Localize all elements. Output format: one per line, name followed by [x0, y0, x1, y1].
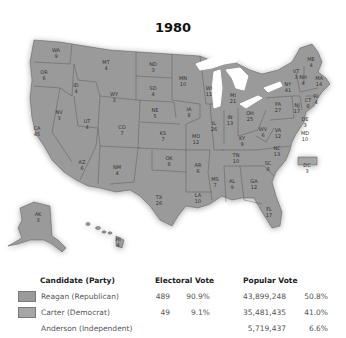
state-label-hi: HI4	[115, 237, 120, 248]
state-electoral-votes: 14	[315, 82, 323, 88]
state-electoral-votes: 4	[115, 243, 120, 249]
state-electoral-votes: 4	[84, 125, 91, 131]
popular-pct: 41.0%	[300, 308, 328, 317]
state-label-me: ME4	[307, 57, 314, 68]
state-electoral-votes: 6	[195, 169, 202, 175]
state-label-mo: MO12	[192, 134, 200, 145]
header-candidate: Candidate (Party)	[40, 276, 115, 285]
state-electoral-votes: 13	[273, 152, 280, 158]
state-label-il: IL26	[211, 121, 217, 132]
state-electoral-votes: 8	[187, 113, 192, 119]
state-label-ma: MA14	[315, 76, 323, 87]
state-label-al: AL9	[229, 179, 235, 190]
state-electoral-votes: 17	[266, 213, 272, 219]
state-label-in: IN13	[227, 115, 233, 126]
state-label-wy: WY3	[110, 92, 118, 103]
state-electoral-votes: 9	[239, 142, 245, 148]
header-electoral-vote: Electoral Vote	[155, 276, 214, 285]
democrat-swatch	[18, 307, 36, 318]
state-electoral-votes: 4	[113, 171, 121, 177]
state-electoral-votes: 25	[246, 117, 254, 123]
popular-votes: 5,719,437	[240, 324, 286, 333]
electoral-votes: 489	[150, 292, 170, 301]
state-label-or: OR6	[40, 70, 47, 81]
state-electoral-votes: 5	[152, 114, 159, 120]
popular-votes: 43,899,248	[240, 292, 286, 301]
state-label-mi: MI21	[230, 93, 236, 104]
state-electoral-votes: 4	[73, 89, 78, 95]
state-label-wv: WV6	[259, 127, 267, 138]
state-electoral-votes: 10	[179, 82, 187, 88]
state-label-nc: NC13	[273, 146, 280, 157]
state-label-ut: UT4	[84, 119, 91, 130]
state-label-nd: ND3	[149, 62, 157, 73]
state-label-ok: OK8	[165, 156, 172, 167]
state-label-nj: NJ17	[294, 103, 300, 114]
state-label-fl: FL17	[266, 207, 272, 218]
state-electoral-votes: 13	[227, 121, 233, 127]
state-electoral-votes: 4	[307, 63, 314, 69]
state-electoral-votes: 4	[314, 100, 319, 106]
state-electoral-votes: 6	[259, 133, 267, 139]
state-electoral-votes: 4	[299, 81, 307, 87]
state-label-va: VA12	[275, 128, 282, 139]
state-label-tn: TN10	[233, 153, 240, 164]
state-electoral-votes: 17	[294, 109, 300, 115]
state-electoral-votes: 11	[206, 92, 212, 98]
state-label-ga: GA12	[250, 179, 257, 190]
state-label-wi: WI11	[206, 86, 212, 97]
state-electoral-votes: 12	[250, 185, 257, 191]
state-electoral-votes: 7	[211, 183, 219, 189]
state-electoral-votes: 6	[40, 76, 47, 82]
popular-pct: 50.8%	[300, 292, 328, 301]
state-electoral-votes: 8	[305, 104, 312, 110]
state-electoral-votes: 45	[34, 132, 41, 138]
state-label-mt: MT4	[102, 60, 109, 71]
state-electoral-votes: 3	[149, 68, 157, 74]
state-electoral-votes: 8	[265, 167, 272, 173]
state-label-de: DE3	[301, 117, 308, 128]
legend-row-anderson: Anderson (Independent) 5,719,437 6.6%	[0, 323, 346, 337]
state-electoral-votes: 9	[229, 185, 235, 191]
state-electoral-votes: 7	[160, 137, 166, 143]
state-label-ne: NE5	[152, 108, 159, 119]
state-electoral-votes: 26	[211, 127, 217, 133]
state-electoral-votes: 4	[102, 66, 109, 72]
electoral-pct: 90.9%	[180, 292, 210, 301]
electoral-pct: 9.1%	[180, 308, 210, 317]
state-label-ia: IA8	[187, 107, 192, 118]
state-electoral-votes: 10	[301, 137, 309, 143]
state-electoral-votes: 3	[110, 98, 118, 104]
state-label-sc: SC8	[265, 161, 272, 172]
state-label-dc: DC3	[303, 163, 310, 174]
state-label-wa: WA9	[52, 48, 60, 59]
state-electoral-votes: 21	[230, 99, 236, 105]
state-label-ca: CA45	[34, 126, 41, 137]
state-label-tx: TX26	[156, 195, 162, 206]
state-electoral-votes: 10	[195, 199, 201, 205]
state-label-ct: CT8	[305, 98, 312, 109]
state-electoral-votes: 6	[79, 166, 86, 172]
candidate-name: Carter (Democrat)	[41, 308, 110, 317]
state-electoral-votes: 8	[165, 162, 172, 168]
state-label-co: CO7	[118, 125, 125, 136]
state-electoral-votes: 26	[156, 201, 162, 207]
results-legend: Candidate (Party) Electoral Vote Popular…	[0, 268, 346, 338]
candidate-name: Reagan (Republican)	[41, 292, 119, 301]
lake-michigan	[212, 70, 222, 108]
state-label-la: LA10	[195, 193, 201, 204]
state-label-ak: AK3	[35, 212, 42, 223]
electoral-votes: 49	[150, 308, 170, 317]
state-electoral-votes: 7	[118, 131, 125, 137]
state-label-az: AZ6	[79, 160, 86, 171]
state-label-mn: MN10	[179, 76, 187, 87]
state-label-pa: PA27	[275, 102, 281, 113]
header-popular-vote: Popular Vote	[243, 276, 298, 285]
state-electoral-votes: 3	[35, 218, 42, 224]
republican-swatch	[18, 291, 36, 302]
state-electoral-votes: 41	[285, 88, 292, 94]
state-label-md: MD10	[301, 131, 309, 142]
state-electoral-votes: 9	[52, 54, 60, 60]
state-label-oh: OH25	[246, 111, 254, 122]
state-electoral-votes: 3	[55, 116, 62, 122]
